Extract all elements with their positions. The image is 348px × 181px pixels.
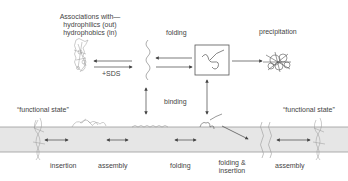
peripheral-protein-cluster [72, 119, 106, 127]
binding-arrows [146, 80, 207, 114]
associations-label: Associations with— hydrophilics (out) hy… [52, 13, 128, 37]
surface-bound-chain [132, 126, 168, 128]
folding-insertion-line-2: insertion [214, 167, 250, 175]
folding-insertion-line-1: folding & [214, 159, 250, 167]
aggregate-protein-icon [74, 39, 88, 73]
unfolded-chain-icon [146, 40, 150, 80]
sds-label: +SDS [102, 70, 120, 78]
sds-exchange-arrows [94, 61, 132, 67]
folded-protein-box [195, 45, 229, 75]
assembly-left-label: assembly [98, 162, 128, 170]
precipitation-label: precipitation [259, 28, 297, 36]
folding-exchange-arrows [156, 58, 192, 67]
folding-insertion-label: folding & insertion [214, 159, 250, 175]
insertion-label: insertion [50, 162, 76, 170]
assembly-right-label: assembly [275, 162, 305, 170]
associations-line-3: hydrophobics (in) [52, 29, 128, 37]
associations-line-2: hydrophilics (out) [52, 21, 128, 29]
folding-top-label: folding [166, 29, 187, 37]
folding-bottom-label: folding [170, 162, 191, 170]
associations-line-1: Associations with— [52, 13, 128, 21]
precipitate-icon [263, 52, 291, 72]
membrane-bilayer [0, 127, 348, 152]
functional-state-right-label: “functional state” [283, 106, 335, 114]
functional-state-left-label: “functional state” [17, 106, 69, 114]
binding-label: binding [164, 98, 187, 106]
